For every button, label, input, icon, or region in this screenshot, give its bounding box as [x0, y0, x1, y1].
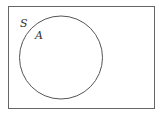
- venn-diagram: S A: [0, 0, 161, 114]
- set-a-label: A: [34, 29, 43, 42]
- universal-set-label: S: [20, 17, 28, 30]
- set-a-circle: [20, 16, 103, 99]
